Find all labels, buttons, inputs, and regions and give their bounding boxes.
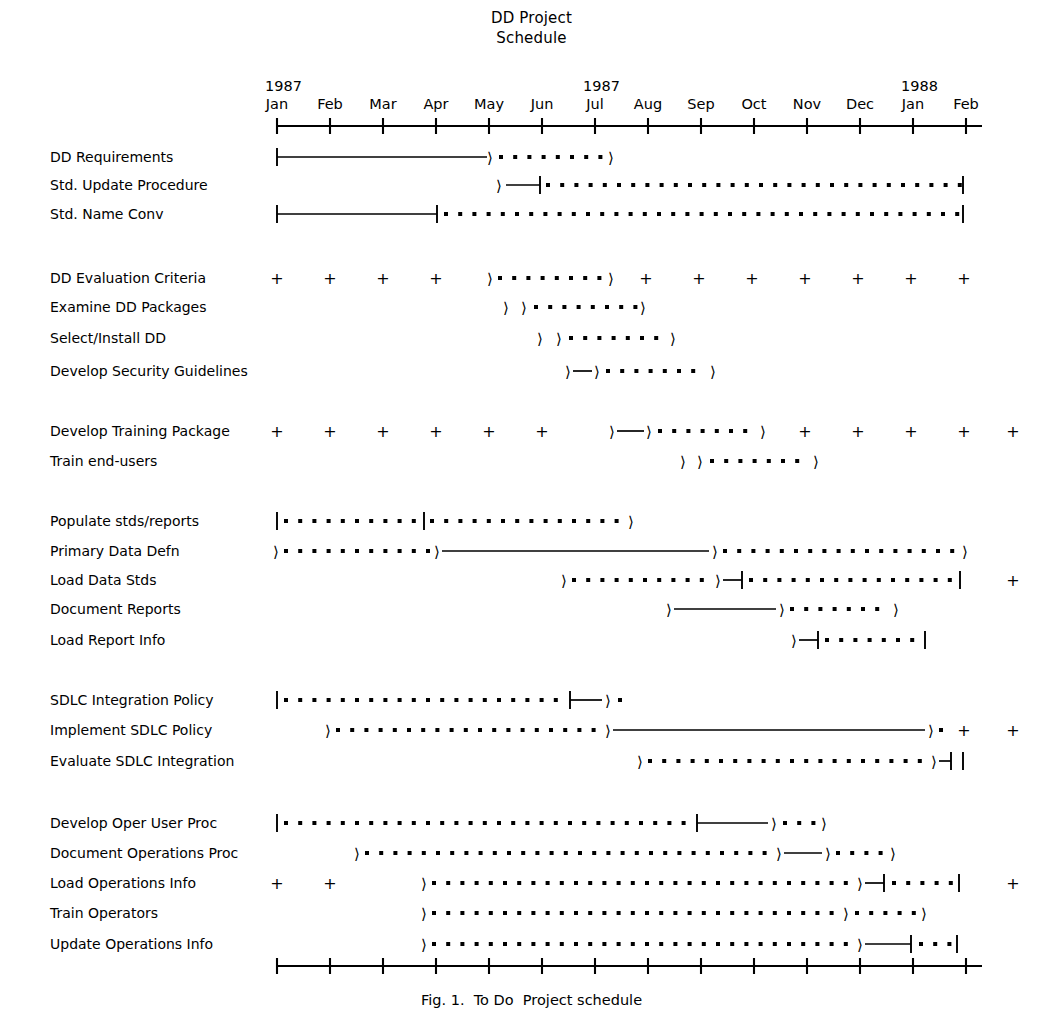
progress-dot (660, 183, 664, 187)
progress-dot (407, 728, 411, 732)
progress-dot (640, 336, 644, 340)
progress-dot (733, 759, 737, 763)
progress-dot (473, 519, 477, 523)
progress-dot (827, 212, 831, 216)
progress-dot (572, 578, 576, 582)
progress-dot (560, 881, 564, 885)
progress-dot (691, 369, 695, 373)
progress-dot (933, 942, 937, 946)
progress-dot (929, 183, 933, 187)
progress-dot (602, 911, 606, 915)
progress-dot (503, 881, 507, 885)
progress-dot (546, 183, 550, 187)
progress-dot (889, 759, 893, 763)
progress-dot (738, 459, 742, 463)
progress-dot (935, 881, 939, 885)
progress-dot (701, 429, 705, 433)
progress-dot (674, 183, 678, 187)
progress-dot (745, 183, 749, 187)
actual-duration-dots (284, 821, 686, 825)
progress-dot (550, 851, 554, 855)
progress-dot (801, 881, 805, 885)
progress-dot (763, 578, 767, 582)
progress-dot (861, 607, 865, 611)
progress-dot (830, 881, 834, 885)
progress-dot (795, 459, 799, 463)
progress-dot (657, 578, 661, 582)
progress-dot (312, 549, 316, 553)
progress-dot (364, 728, 368, 732)
progress-dot (584, 155, 588, 159)
actual-duration-dots (723, 549, 954, 553)
progress-dot (958, 183, 962, 187)
progress-dot (560, 911, 564, 915)
milestone-arrow-icon: ⟩ (487, 270, 493, 288)
progress-dot (700, 212, 704, 216)
progress-dot (492, 728, 496, 732)
progress-dot (478, 728, 482, 732)
progress-dot (631, 183, 635, 187)
progress-dot (716, 942, 720, 946)
progress-dot (577, 305, 581, 309)
progress-dot (432, 911, 436, 915)
progress-dot (546, 881, 550, 885)
progress-dot (535, 851, 539, 855)
progress-dot (766, 549, 770, 553)
progress-dot (705, 759, 709, 763)
progress-dot (850, 851, 854, 855)
actual-duration-dots (919, 942, 951, 946)
actual-duration-dots (836, 851, 883, 855)
progress-dot (398, 549, 402, 553)
progress-dot (645, 911, 649, 915)
progress-dot (521, 851, 525, 855)
progress-dot (677, 369, 681, 373)
progress-dot (802, 183, 806, 187)
progress-dot (801, 942, 805, 946)
progress-dot (822, 549, 826, 553)
progress-dot (625, 821, 629, 825)
milestone-arrow-icon: ⟩ (928, 722, 934, 740)
progress-dot (542, 155, 546, 159)
progress-dot (577, 728, 581, 732)
progress-dot (787, 881, 791, 885)
progress-dot (444, 212, 448, 216)
progress-dot (645, 881, 649, 885)
progress-dot (811, 821, 815, 825)
progress-dot (605, 305, 609, 309)
progress-dot (574, 183, 578, 187)
progress-dot (865, 549, 869, 553)
progress-dot (702, 942, 706, 946)
milestone-arrow-icon: ⟩ (843, 905, 849, 923)
progress-dot (422, 851, 426, 855)
progress-dot (588, 942, 592, 946)
progress-dot (677, 851, 681, 855)
progress-dot (531, 911, 535, 915)
progress-dot (617, 942, 621, 946)
progress-dot (546, 942, 550, 946)
actual-duration-dots (534, 305, 637, 309)
progress-dot (602, 942, 606, 946)
progress-dot (554, 698, 558, 702)
progress-dot (503, 942, 507, 946)
milestone-arrow-icon: ⟩ (760, 423, 766, 441)
progress-dot (927, 212, 931, 216)
progress-dot (730, 881, 734, 885)
progress-dot (787, 183, 791, 187)
progress-dot (298, 549, 302, 553)
progress-dot (606, 851, 610, 855)
progress-dot (511, 821, 515, 825)
progress-dot (592, 851, 596, 855)
actual-duration-dots (284, 549, 430, 553)
progress-dot (369, 698, 373, 702)
progress-dot (870, 212, 874, 216)
progress-dot (298, 698, 302, 702)
progress-dot (435, 728, 439, 732)
progress-dot (833, 759, 837, 763)
progress-dot (743, 429, 747, 433)
progress-dot (600, 519, 604, 523)
progress-dot (751, 549, 755, 553)
progress-dot (479, 851, 483, 855)
progress-dot (563, 728, 567, 732)
progress-dot (603, 183, 607, 187)
progress-dot (851, 549, 855, 553)
